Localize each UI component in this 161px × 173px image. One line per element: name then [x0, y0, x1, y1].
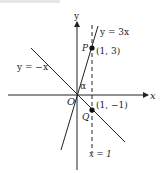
origin-label: O: [67, 96, 75, 107]
point-q-coords: (1, −1): [96, 100, 128, 110]
line-y-equals-3x-label: y = 3x: [99, 27, 129, 37]
y-axis-label: y: [73, 11, 80, 21]
point-p: [89, 45, 94, 50]
header-text: [0, 0, 60, 3]
point-q-label: Q: [82, 112, 90, 122]
coordinate-diagram: x y x = 1 y = 3x y = −x O α P (1, 3) Q (…: [0, 0, 161, 173]
angle-alpha-label: α: [80, 81, 86, 91]
point-q: [89, 107, 94, 112]
line-y-equals-neg-x-label: y = −x: [16, 62, 48, 72]
line-x-equals-1-label: x = 1: [89, 149, 112, 159]
point-p-label: P: [81, 43, 89, 53]
x-axis-label: x: [150, 90, 156, 101]
point-p-coords: (1, 3): [96, 46, 120, 56]
